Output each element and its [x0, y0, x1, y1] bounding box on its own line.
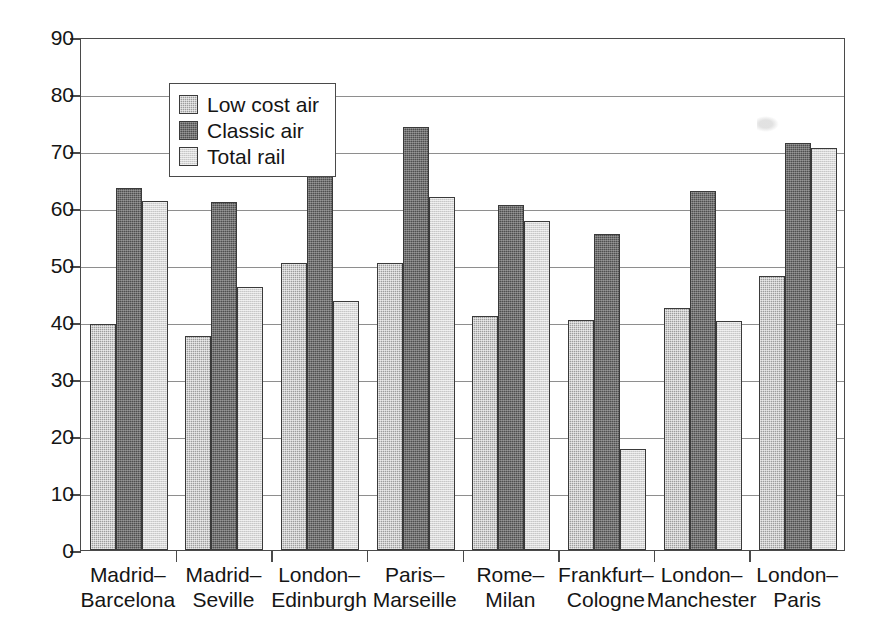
- bar-group: [377, 39, 455, 550]
- legend-item: Low cost air: [179, 91, 319, 117]
- legend-swatch-total-rail: [179, 147, 198, 166]
- bar-classic-air: [690, 191, 716, 550]
- bar-group: [90, 39, 168, 550]
- bar-low-cost-air: [185, 336, 211, 550]
- y-tick-label: 60: [28, 198, 74, 219]
- bar-classic-air: [403, 127, 429, 551]
- bar-low-cost-air: [90, 324, 116, 550]
- bar-total-rail: [142, 201, 168, 550]
- bar-low-cost-air: [568, 320, 594, 550]
- bar-total-rail: [620, 449, 646, 550]
- bar-chart-figure: 0102030405060708090 € per seat Low cost …: [0, 0, 875, 638]
- bar-low-cost-air: [377, 263, 403, 550]
- bar-classic-air: [498, 205, 524, 550]
- y-tick-label: 70: [28, 141, 74, 162]
- legend-label-total-rail: Total rail: [207, 146, 285, 167]
- x-tick-mark: [367, 551, 369, 562]
- bar-low-cost-air: [759, 276, 785, 550]
- bar-group: [472, 39, 550, 550]
- x-category-line-1: London–: [735, 562, 859, 587]
- bar-total-rail: [716, 321, 742, 550]
- y-tick-label: 30: [28, 369, 74, 390]
- legend: Low cost air Classic air Total rail: [169, 83, 336, 177]
- y-tick-label: 50: [28, 255, 74, 276]
- bar-classic-air: [116, 188, 142, 550]
- legend-item: Total rail: [179, 143, 319, 169]
- bar-total-rail: [524, 221, 550, 550]
- legend-label-classic-air: Classic air: [207, 120, 304, 141]
- bar-classic-air: [211, 202, 237, 550]
- legend-item: Classic air: [179, 117, 319, 143]
- legend-swatch-low-cost-air: [179, 95, 198, 114]
- x-tick-mark: [558, 551, 560, 562]
- y-axis: 0102030405060708090: [0, 0, 74, 638]
- x-tick-mark: [271, 551, 273, 562]
- bar-total-rail: [811, 148, 837, 550]
- y-tick-label: 80: [28, 84, 74, 105]
- bar-total-rail: [429, 197, 455, 550]
- x-tick-mark: [463, 551, 465, 562]
- bar-group: [664, 39, 742, 550]
- bar-low-cost-air: [664, 308, 690, 550]
- x-tick-mark: [176, 551, 178, 562]
- x-category-label: London–Paris: [735, 562, 859, 612]
- plot-area: Low cost air Classic air Total rail: [80, 38, 845, 551]
- x-tick-mark: [749, 551, 751, 562]
- legend-label-low-cost-air: Low cost air: [207, 94, 319, 115]
- bar-low-cost-air: [472, 316, 498, 550]
- x-tick-mark: [654, 551, 656, 562]
- bar-classic-air: [594, 234, 620, 550]
- scan-artifact: [757, 116, 779, 132]
- bar-low-cost-air: [281, 263, 307, 550]
- bar-total-rail: [333, 301, 359, 550]
- x-category-line-2: Paris: [735, 587, 859, 612]
- bar-total-rail: [237, 287, 263, 550]
- y-tick-label: 0: [28, 540, 74, 561]
- y-tick-label: 10: [28, 483, 74, 504]
- y-tick-label: 20: [28, 426, 74, 447]
- legend-swatch-classic-air: [179, 121, 198, 140]
- y-tick-label: 40: [28, 312, 74, 333]
- bar-group: [568, 39, 646, 550]
- y-tick-label: 90: [28, 27, 74, 48]
- bar-classic-air: [785, 143, 811, 550]
